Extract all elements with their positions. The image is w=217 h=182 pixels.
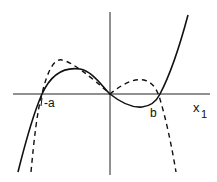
function-diagram: -a b x 1 (0, 0, 217, 182)
neg-a-label: -a (44, 96, 55, 110)
x-axis-subscript: 1 (201, 108, 207, 120)
b-label: b (150, 106, 157, 120)
x-axis-label: x (193, 100, 200, 115)
